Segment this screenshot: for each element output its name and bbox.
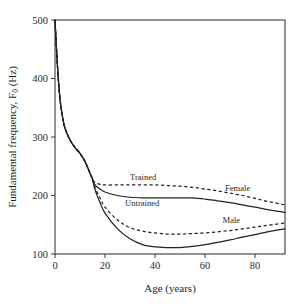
- x-axis-ticks: [55, 254, 255, 258]
- y-axis-ticks: [51, 20, 55, 254]
- x-tick-label: 0: [52, 260, 57, 271]
- y-axis-tick-labels: 100200300400500: [32, 15, 48, 260]
- fundamental-frequency-line-chart: 100200300400500 020406080 TrainedUntrain…: [0, 0, 300, 307]
- y-tick-label: 400: [32, 73, 48, 84]
- series-label-male: Male: [223, 215, 241, 225]
- series-label-female: Female: [225, 183, 250, 193]
- y-tick-label: 200: [32, 190, 48, 201]
- figure-container: 100200300400500 020406080 TrainedUntrain…: [0, 0, 300, 307]
- series-label-trained: Trained: [130, 172, 157, 182]
- y-tick-label: 100: [32, 249, 48, 260]
- plot-frame: [55, 20, 285, 254]
- y-tick-label: 500: [32, 15, 48, 26]
- x-axis-title: Age (years): [144, 282, 196, 295]
- x-tick-label: 20: [100, 260, 111, 271]
- plot-area-border: [55, 20, 285, 254]
- series-label-untrained: Untrained: [125, 198, 160, 208]
- x-tick-label: 80: [250, 260, 261, 271]
- y-tick-label: 300: [32, 132, 48, 143]
- x-tick-label: 60: [200, 260, 211, 271]
- y-axis-title: Fundamental frequency, F0 (Hz): [6, 66, 20, 208]
- x-tick-label: 40: [150, 260, 161, 271]
- x-axis-tick-labels: 020406080: [52, 260, 260, 271]
